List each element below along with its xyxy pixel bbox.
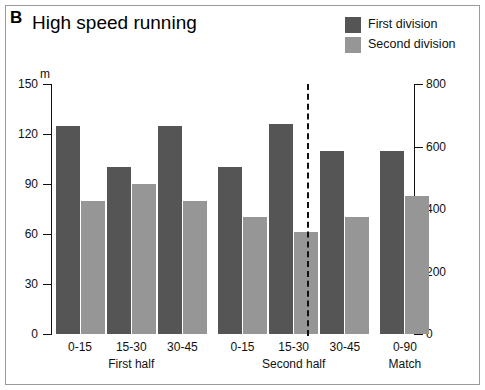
y-axis-left-tick-label: 150	[0, 78, 38, 90]
y-axis-left-tick-label: 60	[0, 228, 38, 240]
y-axis-right-tick	[415, 84, 423, 85]
y-axis-left-tick	[43, 334, 51, 335]
bar	[183, 201, 207, 334]
bar	[132, 184, 156, 334]
x-axis-group-label: Second half	[249, 358, 339, 370]
match-divider-line	[307, 84, 309, 336]
y-axis-right-tick-label: 800	[426, 78, 466, 90]
y-axis-left-tick-label: 0	[0, 328, 38, 340]
y-axis-left-tick	[43, 184, 51, 185]
bar	[269, 124, 293, 334]
bar	[56, 126, 80, 334]
legend-item-second-division: Second division	[345, 36, 456, 53]
legend-swatch-second-division	[345, 37, 361, 53]
bar	[320, 151, 344, 334]
legend-swatch-first-division	[345, 17, 361, 33]
y-axis-left-tick	[43, 84, 51, 85]
legend: First division Second division	[345, 16, 456, 56]
bar	[218, 167, 242, 334]
bar	[345, 217, 369, 334]
y-axis-right-tick-label: 200	[426, 266, 466, 278]
y-axis-left-tick	[43, 234, 51, 235]
x-axis-group-label: First half	[86, 358, 176, 370]
plot-area	[52, 84, 414, 334]
y-axis-right-tick	[415, 147, 423, 148]
y-axis-left-tick-label: 30	[0, 278, 38, 290]
y-axis-left-tick-label: 90	[0, 178, 38, 190]
x-axis-group-label: Match	[360, 358, 450, 370]
y-axis-right-tick-label: 400	[426, 203, 466, 215]
y-axis-left-tick	[43, 284, 51, 285]
y-axis-right-tick-label: 600	[426, 141, 466, 153]
bar	[243, 217, 267, 334]
legend-label-first-division: First division	[368, 18, 437, 31]
legend-label-second-division: Second division	[368, 38, 456, 51]
y-axis-unit-label: m	[40, 68, 50, 80]
chart-figure: B High speed running First division Seco…	[0, 0, 485, 390]
y-axis-left-tick-label: 120	[0, 128, 38, 140]
y-axis-right-tick	[415, 334, 423, 335]
y-axis-right-tick-label: 0	[426, 328, 466, 340]
legend-item-first-division: First division	[345, 16, 456, 33]
bar	[380, 151, 404, 334]
y-axis-left-tick	[43, 134, 51, 135]
bar	[81, 201, 105, 334]
x-axis-category-label: 30-45	[315, 341, 375, 353]
bar	[158, 126, 182, 334]
x-axis-category-label: 0-90	[375, 341, 435, 353]
page-title: High speed running	[32, 13, 197, 32]
bar	[107, 167, 131, 334]
x-axis-category-label: 30-45	[152, 341, 212, 353]
bar	[405, 196, 429, 334]
panel-letter: B	[10, 9, 22, 26]
